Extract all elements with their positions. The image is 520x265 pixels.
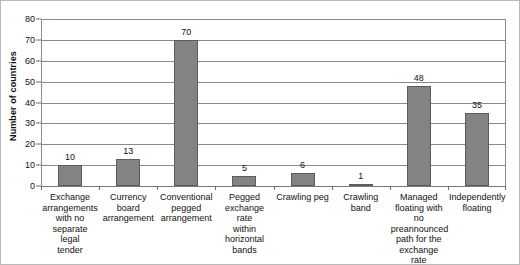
x-axis-label-line: tender: [42, 245, 98, 256]
x-tick-mark: [274, 186, 275, 190]
bar-value-label: 6: [300, 160, 305, 170]
x-tick-mark: [157, 186, 158, 190]
bar-column: 70: [157, 19, 215, 186]
bar-value-label: 13: [123, 146, 133, 156]
y-tick-label-30: 30: [25, 118, 35, 128]
bar[interactable]: [174, 40, 198, 186]
x-axis-label-line: exchange rate: [216, 203, 272, 224]
x-axis-tick-marks: [41, 186, 506, 191]
x-tick-mark: [448, 186, 449, 190]
x-axis-label-line: horizontal: [216, 234, 272, 245]
x-axis-label-line: within: [216, 224, 272, 235]
x-axis-label-line: exchange rate: [391, 245, 447, 265]
x-axis-label: Managedfloating withnopreannouncedpath f…: [390, 192, 448, 265]
x-axis-label-line: Crawling peg: [275, 192, 331, 203]
x-tick-mark: [215, 186, 216, 190]
y-tick-label-20: 20: [25, 139, 35, 149]
bar-value-label: 48: [414, 73, 424, 83]
y-tick-label-70: 70: [25, 35, 35, 45]
x-tick-mark: [99, 186, 100, 190]
bar-series: 1013705614835: [41, 19, 506, 186]
x-axis-label-line: Pegged: [216, 192, 272, 203]
x-axis-label-line: no: [391, 213, 447, 224]
x-axis-label-line: Independently: [449, 192, 505, 203]
x-axis-label-line: path for the: [391, 234, 447, 245]
x-axis-label-line: pegged: [158, 203, 214, 214]
x-axis-label-line: bands: [216, 245, 272, 256]
x-axis-label: Crawling peg: [274, 192, 332, 203]
y-tick-label-40: 40: [25, 98, 35, 108]
y-tick-label-50: 50: [25, 77, 35, 87]
x-axis-label-line: Conventional: [158, 192, 214, 203]
x-tick-mark: [505, 186, 506, 190]
bar[interactable]: [116, 159, 140, 186]
bar[interactable]: [232, 176, 256, 186]
bar-column: 1: [332, 19, 390, 186]
bar[interactable]: [291, 173, 315, 186]
bar-value-label: 70: [181, 27, 191, 37]
x-axis-label-line: arrangement: [158, 213, 214, 224]
bar[interactable]: [407, 86, 431, 186]
bar-value-label: 10: [65, 152, 75, 162]
x-axis-label-line: with no: [42, 213, 98, 224]
x-axis-label-line: separate legal: [42, 224, 98, 245]
x-axis-label-line: Currency: [100, 192, 156, 203]
x-axis-label: Peggedexchange ratewithinhorizontalbands: [215, 192, 273, 255]
x-axis-label-line: preannounced: [391, 224, 447, 235]
x-axis-label-line: Exchange: [42, 192, 98, 203]
bar-chart-figure: Number of countries 01020304050607080 10…: [0, 0, 520, 265]
x-axis-label-line: floating with: [391, 203, 447, 214]
y-tick-label-0: 0: [30, 181, 35, 191]
bar[interactable]: [465, 113, 489, 186]
x-axis-category-labels: Exchangearrangementswith noseparate lega…: [41, 192, 506, 262]
x-axis-label-line: Managed: [391, 192, 447, 203]
bar-value-label: 5: [242, 163, 247, 173]
bar-column: 5: [215, 19, 273, 186]
bar[interactable]: [58, 165, 82, 186]
x-axis-label: Exchangearrangementswith noseparate lega…: [41, 192, 99, 255]
bar-value-label: 35: [472, 100, 482, 110]
x-axis-label: Currencyboardarrangement: [99, 192, 157, 224]
y-tick-label-60: 60: [25, 56, 35, 66]
bar-column: 10: [41, 19, 99, 186]
x-axis-label-line: Crawling band: [333, 192, 389, 213]
x-tick-mark: [41, 186, 42, 190]
x-tick-mark: [390, 186, 391, 190]
x-axis-label-line: board: [100, 203, 156, 214]
x-axis-label: Crawling band: [332, 192, 390, 213]
x-tick-mark: [332, 186, 333, 190]
plot-area: 1013705614835: [41, 19, 506, 186]
bar-column: 48: [390, 19, 448, 186]
x-axis-label: Conventionalpeggedarrangement: [157, 192, 215, 224]
bar-value-label: 1: [358, 171, 363, 181]
y-tick-label-80: 80: [25, 14, 35, 24]
y-tick-label-10: 10: [25, 160, 35, 170]
x-axis-label-line: arrangements: [42, 203, 98, 214]
x-axis-label: Independentlyfloating: [448, 192, 506, 213]
bar-column: 35: [448, 19, 506, 186]
y-axis-tick-labels: 01020304050607080: [1, 19, 41, 186]
x-axis-label-line: floating: [449, 203, 505, 214]
x-axis-label-line: arrangement: [100, 213, 156, 224]
bar-column: 13: [99, 19, 157, 186]
bar-column: 6: [274, 19, 332, 186]
